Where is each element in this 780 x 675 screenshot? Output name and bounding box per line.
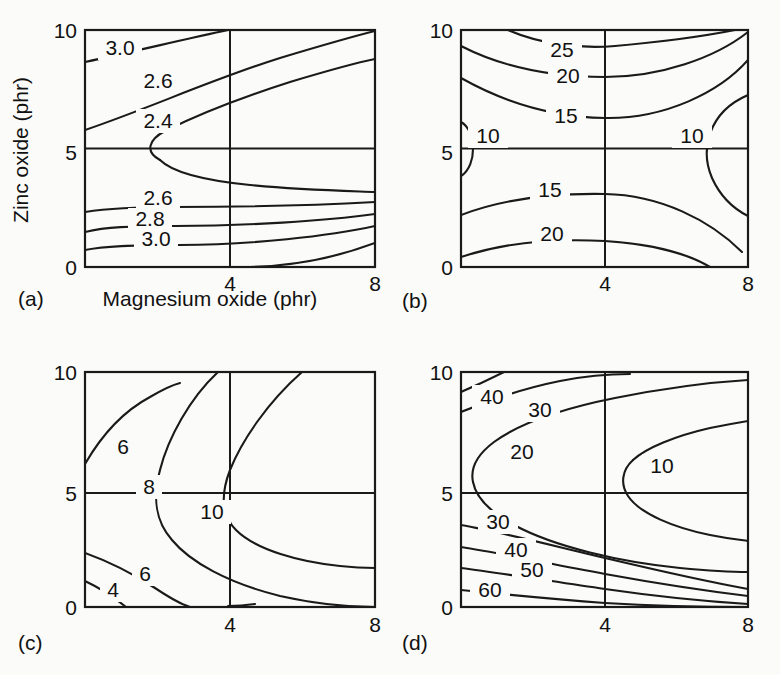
panel-a: Zinc oxide (phr) 10 5 0 4 8 [0,0,400,320]
contour-label: 3.0 [141,227,170,250]
y-tick-0: 0 [441,596,453,619]
contour-label-group: 6 8 10 6 4 [100,435,231,602]
y-tick-10: 10 [54,19,77,42]
x-tick-4: 4 [224,613,236,636]
contour-label: 6 [117,435,129,458]
contour-label: 50 [520,558,543,581]
contour-line [472,380,748,482]
contour-label: 10 [476,124,499,147]
y-tick-5: 5 [65,141,77,164]
contour-label: 4 [107,578,119,601]
contour-label: 15 [554,104,577,127]
x-tick-8: 8 [369,613,381,636]
y-tick-5: 5 [441,141,453,164]
y-axis-title: Zinc oxide (phr) [9,77,32,223]
y-tick-10: 10 [54,361,77,384]
contour-label: 20 [556,64,579,87]
y-tick-0: 0 [65,256,77,279]
panel-c: 10 5 0 4 8 [0,340,400,675]
contour-label: 10 [680,124,703,147]
x-tick-8: 8 [369,272,381,295]
y-tick-5: 5 [65,482,77,505]
contour-label: 2.6 [143,186,172,209]
x-tick-4: 4 [599,613,611,636]
contour-line [156,372,375,607]
contour-label: 20 [540,222,563,245]
contour-label: 20 [510,440,533,463]
x-tick-8: 8 [742,272,754,295]
contour-line [461,194,742,252]
x-tick-4: 4 [599,272,611,295]
contour-label: 30 [528,398,551,421]
contour-label: 30 [486,510,509,533]
contour-label: 6 [139,562,151,585]
contour-line [623,460,748,541]
y-tick-10: 10 [430,19,453,42]
contour-label: 8 [143,475,155,498]
panel-d: 10 5 0 4 8 [390,340,780,675]
contour-figure: Zinc oxide (phr) 10 5 0 4 8 [0,0,780,675]
contour-label: 15 [538,178,561,201]
contour-label: 10 [650,454,673,477]
panel-tag-a: (a) [18,287,44,310]
contour-label-group: 3.0 2.6 2.4 2.6 2.8 3.0 [98,36,180,251]
contour-label: 40 [480,385,503,408]
contour-line [250,243,375,267]
y-tick-0: 0 [441,256,453,279]
y-tick-0: 0 [65,596,77,619]
panel-tag-c: (c) [18,631,43,654]
contour-label: 2.4 [143,109,173,132]
contour-label: 3.0 [105,36,134,59]
x-axis-title: Magnesium oxide (phr) [103,287,318,310]
y-tick-5: 5 [441,482,453,505]
panel-tag-b: (b) [402,289,428,312]
contour-line [224,372,375,568]
contour-label: 60 [478,578,501,601]
contour-line [707,95,748,216]
contour-line [228,604,255,606]
contour-label: 2.6 [143,69,172,92]
contour-line [461,240,710,267]
y-tick-10: 10 [430,361,453,384]
panel-b: 10 5 0 4 8 [390,0,780,320]
x-tick-8: 8 [742,613,754,636]
contour-label: 25 [550,38,573,61]
contour-label: 10 [200,500,223,523]
contour-label-group: 25 20 15 10 10 15 20 [468,38,712,246]
panel-tag-d: (d) [402,631,428,654]
contour-line [150,59,375,160]
contour-line [160,160,375,192]
